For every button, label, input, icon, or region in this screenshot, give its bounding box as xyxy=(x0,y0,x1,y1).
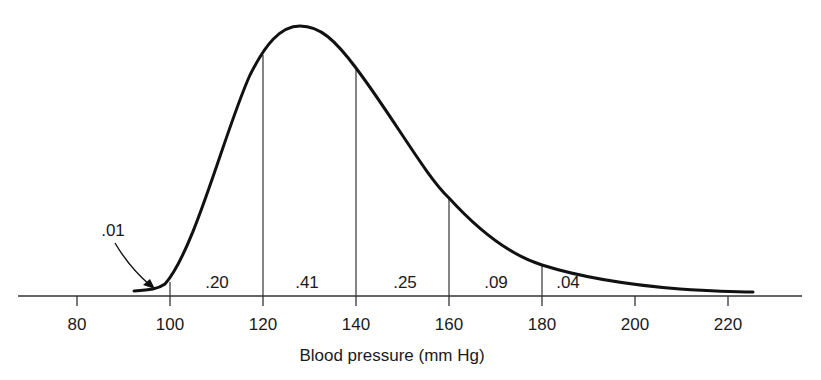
region-label-below-100: .01 xyxy=(101,221,125,240)
interval-boundaries xyxy=(170,55,542,296)
density-chart: 80 100 120 140 160 180 200 220 Blood pre… xyxy=(0,0,821,380)
tick-label-100: 100 xyxy=(156,315,184,334)
annotation-arrow xyxy=(115,243,151,286)
tick-label-80: 80 xyxy=(68,315,87,334)
tick-label-220: 220 xyxy=(714,315,742,334)
tick-label-140: 140 xyxy=(342,315,370,334)
region-label-160-180: .09 xyxy=(484,273,508,292)
density-curve xyxy=(134,26,753,292)
tick-label-160: 160 xyxy=(435,315,463,334)
region-label-above-180: .04 xyxy=(556,273,580,292)
x-axis-ticks xyxy=(77,296,728,306)
tick-label-120: 120 xyxy=(249,315,277,334)
region-label-140-160: .25 xyxy=(393,273,417,292)
x-axis-title: Blood pressure (mm Hg) xyxy=(299,346,484,365)
region-label-100-120: .20 xyxy=(205,273,229,292)
tick-label-180: 180 xyxy=(528,315,556,334)
x-axis-tick-labels: 80 100 120 140 160 180 200 220 xyxy=(68,315,743,334)
region-label-120-140: .41 xyxy=(295,273,319,292)
tick-label-200: 200 xyxy=(621,315,649,334)
